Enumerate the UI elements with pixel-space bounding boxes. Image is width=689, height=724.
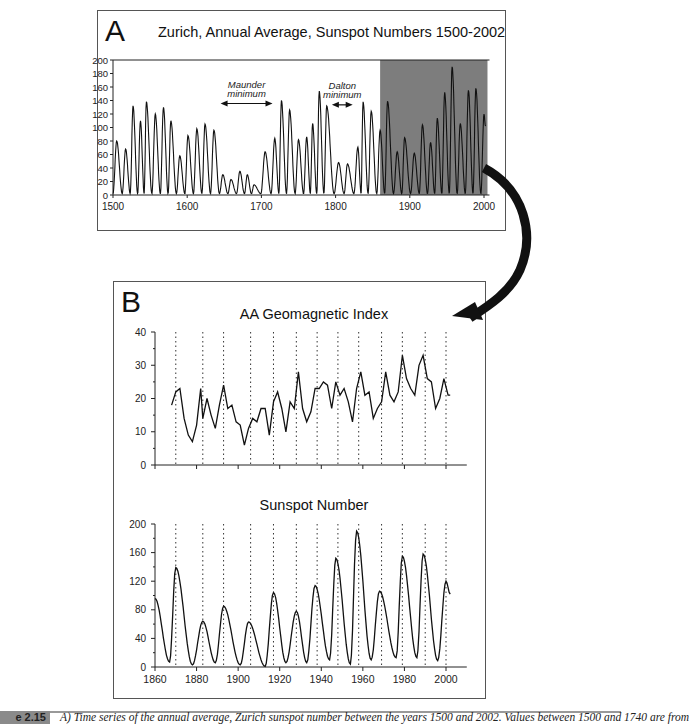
arrow-head-icon: [452, 302, 483, 320]
caption-text: A) Time series of the annual average, Zu…: [60, 711, 689, 724]
figure-caption: e 2.15 A) Time series of the annual aver…: [0, 711, 621, 724]
figure-number-label: e 2.15: [0, 711, 50, 724]
